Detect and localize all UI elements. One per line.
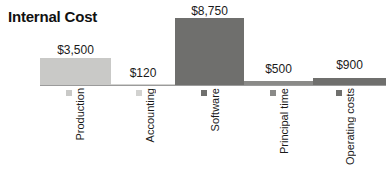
category-label: Operating costs (345, 88, 356, 165)
plot-area: $3,500$120$8,750$500$900 (0, 0, 386, 86)
category-label: Principal time (279, 88, 290, 154)
category-legend-operating-costs[interactable]: Operating costs (336, 88, 356, 165)
category-legend-accounting[interactable]: Accounting (136, 88, 156, 142)
bar-software[interactable] (175, 18, 244, 85)
axis-baseline (40, 85, 386, 86)
bar-operating-costs[interactable] (313, 78, 386, 85)
value-label-software: $8,750 (175, 4, 244, 18)
bar-principal-time[interactable] (244, 81, 313, 85)
legend-swatch-icon (336, 90, 342, 96)
category-label: Production (75, 88, 86, 141)
internal-cost-bar-chart: Internal Cost $3,500$120$8,750$500$900 P… (0, 0, 386, 184)
category-label: Accounting (145, 88, 156, 142)
category-label: Software (210, 88, 221, 131)
bar-accounting[interactable] (111, 84, 175, 85)
category-legend-principal-time[interactable]: Principal time (270, 88, 290, 154)
category-legend-production[interactable]: Production (66, 88, 86, 141)
bar-production[interactable] (40, 58, 111, 85)
legend-swatch-icon (136, 90, 142, 96)
legend-swatch-icon (270, 90, 276, 96)
value-label-principal-time: $500 (244, 62, 313, 76)
value-label-accounting: $120 (111, 66, 175, 80)
value-label-operating-costs: $900 (313, 58, 386, 72)
category-legend-software[interactable]: Software (201, 88, 221, 131)
legend-swatch-icon (66, 90, 72, 96)
value-label-production: $3,500 (40, 43, 111, 57)
legend-swatch-icon (201, 90, 207, 96)
